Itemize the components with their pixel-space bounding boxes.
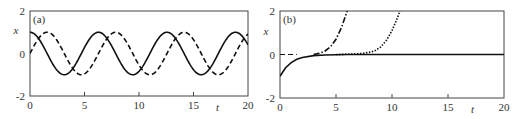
panel-label: (b)	[283, 13, 296, 26]
x-tick-label: 15	[188, 99, 200, 111]
x-tick-label: 0	[27, 99, 33, 111]
x-axis-label: t	[471, 103, 475, 115]
panel-a: 05101520-202tx(a)	[13, 5, 254, 113]
y-tick-label: 2	[270, 5, 276, 17]
series-solid	[280, 55, 504, 77]
x-tick-label: 20	[243, 99, 255, 111]
panel-label: (a)	[33, 13, 46, 26]
x-axis-label: t	[216, 101, 220, 113]
y-tick-label: 0	[20, 48, 26, 60]
x-tick-label: 0	[277, 101, 283, 113]
y-tick-label: 2	[20, 5, 26, 17]
series-dashed	[30, 32, 248, 74]
series-dotted	[336, 11, 400, 55]
x-tick-label: 10	[134, 99, 146, 111]
y-tick-label: -2	[16, 90, 25, 102]
plot-frame	[30, 11, 248, 96]
figure: 05101520-202tx(a)05101520-202tx(b)	[0, 0, 521, 119]
x-tick-label: 5	[333, 101, 339, 113]
y-tick-label: 0	[270, 49, 276, 61]
series-dash-dot	[314, 11, 348, 55]
y-axis-label: x	[13, 24, 19, 36]
y-tick-label: -2	[266, 92, 275, 104]
x-tick-label: 15	[443, 101, 455, 113]
panel-b: 05101520-202tx(b)	[263, 5, 510, 115]
x-tick-label: 5	[82, 99, 88, 111]
x-tick-label: 20	[499, 101, 511, 113]
y-axis-label: x	[263, 25, 269, 37]
series-solid	[30, 32, 248, 75]
x-tick-label: 10	[387, 101, 399, 113]
